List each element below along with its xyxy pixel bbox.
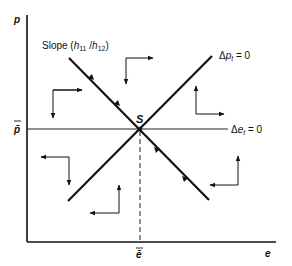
direction-arrow-lower-right (210, 156, 238, 185)
svg-text:p̄: p̄ (13, 124, 20, 135)
p-bar-label: p̄ (13, 121, 21, 135)
direction-arrow-upper-left (53, 90, 82, 118)
delta-p-zero-label: Δpt = 0 (219, 50, 251, 62)
direction-arrow-upper-middle (126, 58, 153, 84)
direction-arrow-lower-left (41, 157, 69, 185)
x-axis-label: e (265, 248, 271, 259)
y-axis-label: p (13, 14, 20, 25)
phase-diagram: p e p̄ ē Δet = 0 Δpt = 0 Slope (h11 /h12… (0, 0, 292, 266)
equilibrium-point (138, 127, 142, 131)
delta-e-zero-label: Δet = 0 (231, 124, 263, 136)
equilibrium-label: S (136, 113, 144, 125)
saddle-path-label: Slope (h11 /h12) (42, 40, 109, 52)
svg-text:ē: ē (136, 249, 142, 260)
direction-arrow-upper-right (196, 86, 224, 114)
direction-arrow-lower-middle (90, 185, 119, 213)
e-bar-label: ē (136, 248, 143, 260)
